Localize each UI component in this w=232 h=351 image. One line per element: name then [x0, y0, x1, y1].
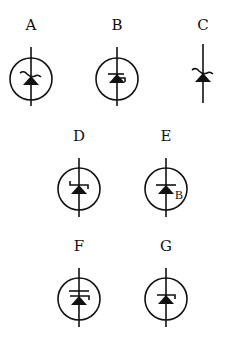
diode-triangle — [195, 73, 211, 82]
symbol-label: F — [74, 237, 84, 255]
symbol-label: C — [197, 16, 208, 34]
diode-triangle — [71, 185, 87, 194]
symbol-e: E B — [145, 127, 187, 217]
symbol-label: A — [25, 16, 37, 34]
base-terminal-label: B — [175, 188, 183, 202]
symbol-b: B — [96, 16, 138, 106]
symbol-d: D — [58, 127, 100, 217]
symbol-label: D — [73, 127, 85, 145]
symbol-a: A — [10, 16, 52, 106]
diode-triangle — [158, 185, 174, 194]
symbol-f: F — [58, 237, 100, 327]
symbol-c: C — [192, 16, 213, 103]
diode-triangle — [71, 296, 87, 305]
symbol-label: G — [160, 237, 172, 255]
symbol-label: B — [111, 16, 122, 34]
diode-triangle — [23, 76, 39, 85]
symbol-g: G — [145, 237, 187, 327]
diode-symbols-figure: A B C D E B F — [0, 0, 232, 351]
symbol-label: E — [161, 127, 172, 145]
diode-triangle — [158, 295, 174, 304]
